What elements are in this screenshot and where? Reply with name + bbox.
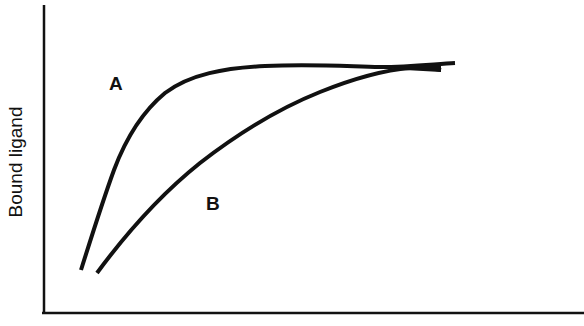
- curve-b: [97, 68, 441, 273]
- saturation-chart: Bound ligand A B: [0, 0, 584, 326]
- curve-a-label: A: [109, 73, 123, 94]
- y-axis-title: Bound ligand: [5, 107, 26, 218]
- curve-b-tail: [405, 66, 441, 72]
- curve-a: [81, 63, 455, 270]
- curve-b-label: B: [206, 193, 220, 214]
